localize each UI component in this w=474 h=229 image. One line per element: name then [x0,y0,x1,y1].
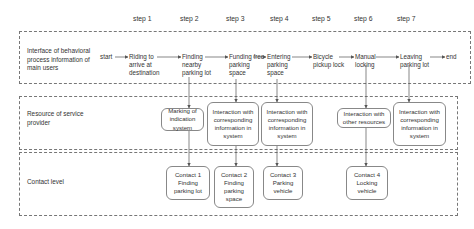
contact-2: Contact 2 Finding parking space [214,166,254,208]
step-6-label: step 6 [354,15,373,24]
flow-start: start [100,53,112,61]
resource-interaction-info-1: Interaction with corresponding informati… [207,102,259,146]
step-4-label: step 4 [270,15,289,24]
contact-4: Contact 4 Locking vehicle [346,166,388,200]
step-1-label: step 1 [133,15,152,24]
resource-interaction-other: Interaction with other resources [337,108,391,128]
resource-marking-indication: Marking of indication system [161,108,204,131]
flow-node-riding: Riding to arrive at destination [129,53,165,78]
flow-node-manual-locking: Manual locking [355,53,385,69]
flow-node-bicycle-pickup: Bicycle pickup lock [313,53,347,69]
lane-resource-label: Resource of service provider [27,110,92,127]
contact-1: Contact 1 Finding parking lot [166,166,210,200]
flow-node-finding-lot: Finding nearby parking lot [182,53,220,78]
contact-3: Contact 3 Parking vehicle [263,166,303,200]
flow-node-leaving-lot: Leaving parking lot [400,53,432,69]
lane-contact-label: Contact level [27,178,92,187]
resource-interaction-info-3: Interaction with corresponding informati… [393,102,446,146]
step-3-label: step 3 [226,15,245,24]
flow-node-funding-space: Funding free parking space [229,53,265,78]
step-7-label: step 7 [397,15,416,24]
resource-interaction-info-2: Interaction with corresponding informati… [261,102,313,146]
lane-user-label: Interface of behavioral process informat… [27,47,95,73]
step-5-label: step 5 [312,15,331,24]
flow-node-entering-space: Entering parking space [267,53,297,78]
step-2-label: step 2 [180,15,199,24]
flow-end: end [446,53,457,61]
